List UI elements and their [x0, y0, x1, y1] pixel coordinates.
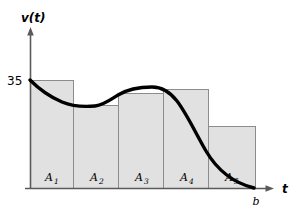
svg-text:5: 5	[234, 177, 239, 186]
svg-text:A: A	[179, 171, 188, 184]
svg-text:3: 3	[144, 177, 149, 186]
x-endpoint-label-b: b	[252, 195, 259, 208]
svg-text:4: 4	[188, 177, 194, 186]
figure-canvas: v(t) t 35 b A 1 A 2 A 3 A 4 A 5	[0, 0, 301, 221]
x-axis-arrow-icon	[266, 185, 275, 192]
svg-text:A: A	[89, 171, 98, 184]
svg-text:A: A	[224, 171, 233, 184]
y-tick-label-35: 35	[7, 74, 22, 88]
y-axis-arrow-icon	[27, 27, 34, 36]
x-axis-label: t	[282, 182, 289, 196]
svg-text:A: A	[134, 171, 143, 184]
velocity-riemann-sum-figure: v(t) t 35 b A 1 A 2 A 3 A 4 A 5	[0, 0, 301, 221]
svg-text:A: A	[44, 171, 53, 184]
svg-text:1: 1	[54, 177, 59, 186]
svg-text:2: 2	[98, 177, 104, 186]
y-axis-label: v(t)	[21, 11, 46, 25]
